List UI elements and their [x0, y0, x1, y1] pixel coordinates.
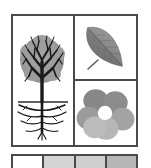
gray-swatch-row: [11, 154, 138, 168]
tree-with-roots-icon: [13, 16, 73, 145]
grid-cell-leaf[interactable]: [75, 16, 136, 81]
plant-parts-grid: [11, 14, 138, 147]
grid-cell-flower[interactable]: [75, 81, 136, 145]
grid-cell-tree[interactable]: [13, 16, 75, 145]
swatch-cell[interactable]: [76, 156, 107, 168]
swatch-cell[interactable]: [44, 156, 75, 168]
leaf-icon: [75, 16, 136, 79]
leaf-stem: [88, 60, 98, 69]
flower-center: [98, 106, 112, 120]
figure-canvas: [0, 0, 151, 168]
swatch-cell[interactable]: [13, 156, 44, 168]
swatch-cell[interactable]: [107, 156, 136, 168]
flower-icon: [75, 81, 136, 145]
